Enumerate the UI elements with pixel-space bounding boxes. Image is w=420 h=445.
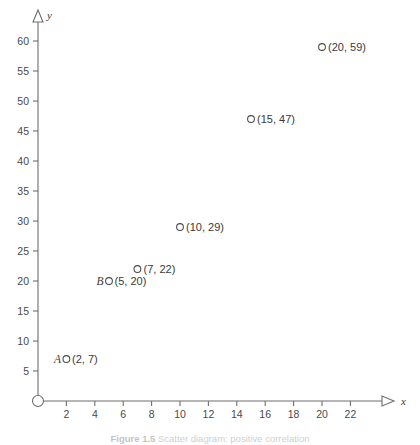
x-tick-label: 20 [316,408,328,420]
y-tick-label: 55 [17,65,29,77]
data-point-marker [177,224,184,231]
y-axis-ticks: 5 10 15 20 25 30 35 40 45 50 55 60 [17,35,38,377]
x-axis-ticks: 2 4 6 8 10 12 14 16 18 20 22 [63,401,356,420]
data-point-name: A [53,353,62,365]
figure-caption: Figure 1.5 Scatter diagram: positive cor… [0,432,420,445]
y-tick-label: 20 [17,275,29,287]
y-tick-label: 50 [17,95,29,107]
x-tick-label: 22 [345,408,357,420]
y-tick-label: 10 [17,335,29,347]
origin-marker [33,396,44,407]
scatter-diagram-figure: y x 5 10 15 20 25 30 35 40 45 50 [0,0,420,445]
data-point-label: (10, 29) [186,221,224,233]
y-axis-arrow-icon [33,10,43,22]
data-point: (7, 22) [134,263,175,275]
y-tick-label: 60 [17,35,29,47]
data-point: (20, 59) [319,41,366,53]
data-point-label: (20, 59) [328,41,366,53]
x-tick-label: 8 [149,408,155,420]
y-tick-label: 40 [17,155,29,167]
x-tick-label: 14 [231,408,243,420]
data-point-label: (15, 47) [257,113,295,125]
data-point-marker [106,278,113,285]
data-point-label: (2, 7) [72,353,98,365]
figure-caption-label: Figure 1.5 [110,433,155,444]
data-point-label: (5, 20) [115,275,147,287]
y-tick-label: 30 [17,215,29,227]
x-tick-label: 6 [120,408,126,420]
data-point-marker [248,116,255,123]
y-tick-label: 35 [17,185,29,197]
x-tick-label: 12 [203,408,215,420]
data-point-marker [319,44,326,51]
figure-caption-text: Scatter diagram: positive correlation [158,433,310,444]
data-point-marker [134,266,141,273]
x-tick-label: 18 [288,408,300,420]
data-point: B (5, 20) [96,275,146,287]
data-point-label: (7, 22) [144,263,176,275]
data-point: (10, 29) [177,221,224,233]
data-point: (15, 47) [248,113,295,125]
scatter-plot-canvas: y x 5 10 15 20 25 30 35 40 45 50 [0,0,420,445]
data-point: A (2, 7) [53,353,98,365]
x-axis-label: x [400,395,406,407]
x-tick-label: 2 [63,408,69,420]
y-tick-label: 5 [23,365,29,377]
x-tick-label: 10 [174,408,186,420]
x-tick-label: 16 [259,408,271,420]
y-tick-label: 25 [17,245,29,257]
data-point-marker [63,356,70,363]
x-tick-label: 4 [92,408,98,420]
y-tick-label: 15 [17,305,29,317]
x-axis-arrow-icon [382,396,394,406]
y-axis-label: y [46,9,52,21]
data-point-name: B [96,275,103,287]
y-tick-label: 45 [17,125,29,137]
